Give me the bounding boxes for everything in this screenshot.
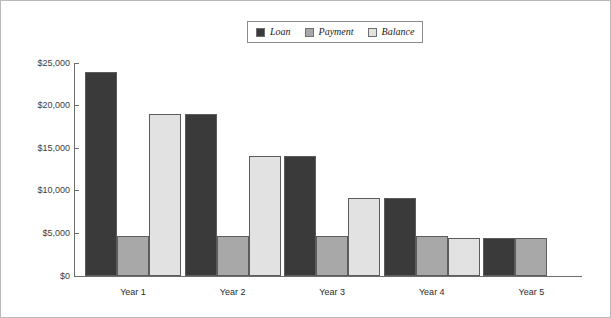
legend-entry-balance[interactable]: Balance — [368, 27, 415, 37]
chart-legend: LoanPaymentBalance — [247, 21, 423, 43]
bar-group — [185, 63, 281, 276]
chart-figure: LoanPaymentBalance $0$5,000$10,000$15,00… — [0, 0, 611, 318]
x-axis-tick-label: Year 4 — [384, 288, 480, 297]
bar-group — [85, 63, 181, 276]
bar-group — [284, 63, 380, 276]
bar-balance[interactable] — [249, 156, 281, 276]
bar-group — [384, 63, 480, 276]
y-axis-tick-label: $20,000 — [37, 101, 70, 110]
bar-balance[interactable] — [348, 198, 380, 276]
y-axis-tick-label: $5,000 — [42, 229, 70, 238]
bar-loan[interactable] — [284, 156, 316, 276]
y-axis-tick-mark — [74, 105, 79, 106]
bar-loan[interactable] — [185, 114, 217, 276]
bar-group — [483, 63, 579, 276]
legend-swatch-icon — [256, 28, 265, 37]
x-axis-tick-label: Year 1 — [85, 288, 181, 297]
bar-balance[interactable] — [149, 114, 181, 276]
y-axis-tick-mark — [74, 190, 79, 191]
plot-area — [74, 63, 572, 276]
y-axis-tick-label: $15,000 — [37, 144, 70, 153]
bar-loan[interactable] — [384, 198, 416, 276]
bar-payment[interactable] — [117, 236, 149, 276]
legend-swatch-icon — [368, 28, 377, 37]
y-axis-tick-mark — [74, 148, 79, 149]
y-axis-tick-mark — [74, 276, 79, 277]
legend-entry-loan[interactable]: Loan — [256, 27, 291, 37]
x-axis-tick-label: Year 2 — [185, 288, 281, 297]
x-axis-tick-label: Year 3 — [284, 288, 380, 297]
bar-loan[interactable] — [85, 72, 117, 276]
y-axis-tick-mark — [74, 233, 79, 234]
x-axis-tick-label: Year 5 — [483, 288, 579, 297]
bar-payment[interactable] — [316, 236, 348, 276]
y-axis-tick-label: $10,000 — [37, 186, 70, 195]
bar-balance[interactable] — [448, 238, 480, 276]
legend-label: Balance — [382, 27, 415, 37]
y-axis-tick-label: $25,000 — [37, 59, 70, 68]
bar-loan[interactable] — [483, 238, 515, 276]
x-axis-line — [74, 276, 582, 277]
legend-label: Payment — [319, 27, 354, 37]
legend-entry-payment[interactable]: Payment — [305, 27, 354, 37]
y-axis-tick-mark — [74, 63, 79, 64]
y-axis-tick-label: $0 — [60, 272, 70, 281]
legend-label: Loan — [270, 27, 291, 37]
legend-swatch-icon — [305, 28, 314, 37]
bar-payment[interactable] — [416, 236, 448, 276]
bar-payment[interactable] — [217, 236, 249, 276]
bar-payment[interactable] — [515, 238, 547, 276]
